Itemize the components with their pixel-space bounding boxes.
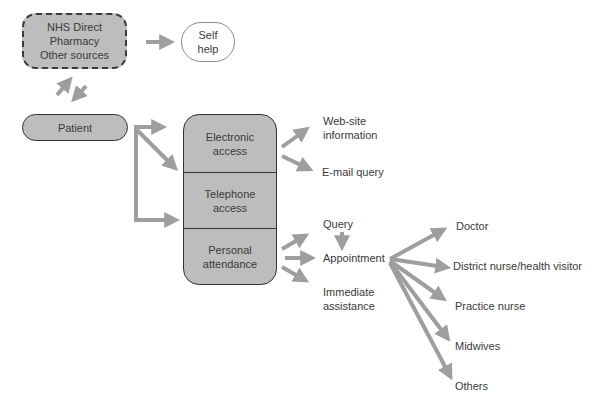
query-label: Query xyxy=(323,217,353,231)
self-help-node: Self help xyxy=(181,22,235,62)
label-line: Web-site xyxy=(323,114,377,128)
arrow-patient-to-electronic xyxy=(137,130,173,166)
node-line: Telephone xyxy=(205,187,256,201)
arrow-to-doctor xyxy=(390,231,441,259)
arrow-to-query xyxy=(282,237,303,249)
target-midwives: Midwives xyxy=(455,339,500,353)
arrow-sources-to-patient xyxy=(76,86,86,97)
node-line: Personal xyxy=(203,243,257,257)
self-help-line: Self xyxy=(199,28,218,42)
node-line: access xyxy=(205,201,256,215)
personal-attendance-node: Personal attendance xyxy=(184,229,276,284)
arrow-patient-to-personal xyxy=(136,128,173,220)
website-label: Web-site information xyxy=(323,114,377,142)
arrow-patient-to-sources xyxy=(57,82,68,95)
access-stack: Electronic access Telephone access Perso… xyxy=(183,114,277,285)
immediate-label: Immediate assistance xyxy=(323,285,375,313)
sources-box: NHS Direct Pharmacy Other sources xyxy=(22,13,127,69)
label-line: Immediate xyxy=(323,285,375,299)
sources-line: Other sources xyxy=(40,48,109,62)
node-line: attendance xyxy=(203,257,257,271)
node-line: access xyxy=(206,144,254,158)
target-district-nurse: District nurse/health visitor xyxy=(453,259,582,273)
telephone-access-node: Telephone access xyxy=(184,173,276,229)
sources-line: Pharmacy xyxy=(50,34,100,48)
patient-node: Patient xyxy=(22,114,128,141)
email-label: E-mail query xyxy=(322,165,384,179)
arrow-to-email xyxy=(282,156,307,168)
target-doctor: Doctor xyxy=(456,219,488,233)
target-others: Others xyxy=(455,379,488,393)
label-line: assistance xyxy=(323,299,375,313)
arrow-to-website xyxy=(282,131,304,147)
patient-label: Patient xyxy=(58,121,92,135)
arrow-to-midwives xyxy=(390,262,446,336)
target-practice-nurse: Practice nurse xyxy=(455,299,525,313)
electronic-access-node: Electronic access xyxy=(184,115,276,173)
appointment-label: Appointment xyxy=(323,251,385,265)
arrow-to-immediate xyxy=(282,267,303,279)
sources-line: NHS Direct xyxy=(47,20,102,34)
self-help-line: help xyxy=(198,42,219,56)
node-line: Electronic xyxy=(206,130,254,144)
label-line: information xyxy=(323,128,377,142)
